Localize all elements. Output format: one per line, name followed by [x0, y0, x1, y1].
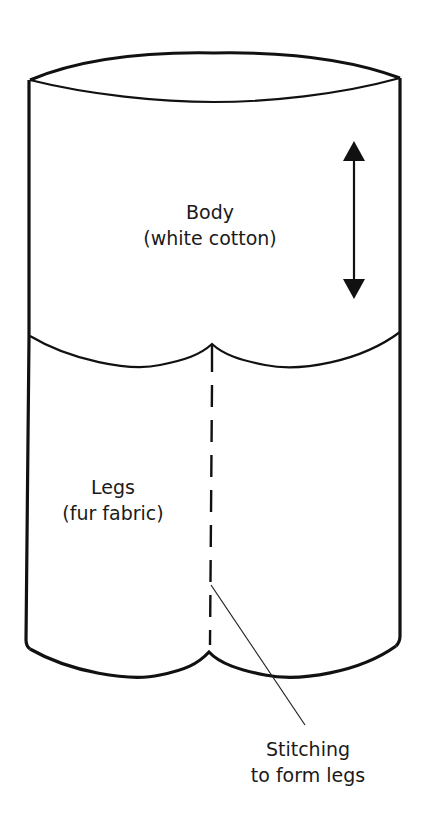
- legs-material-label: (fur fabric): [62, 502, 163, 524]
- cylinder-top-rim: [30, 53, 400, 102]
- pattern-diagram: Body (white cotton) Legs (fur fabric) St…: [0, 0, 428, 817]
- legs-bottom-edge: [30, 646, 396, 677]
- stitching-purpose-label: to form legs: [251, 764, 365, 786]
- body-material-label: (white cotton): [143, 227, 277, 249]
- double-arrow-icon: [343, 141, 365, 299]
- stitching-dashed-line: [210, 385, 212, 645]
- body-label: Body: [186, 201, 234, 223]
- legs-label: Legs: [91, 476, 135, 498]
- stitching-label: Stitching: [266, 738, 350, 760]
- body-legs-seam: [30, 332, 400, 367]
- stitching-leader-line: [211, 585, 305, 725]
